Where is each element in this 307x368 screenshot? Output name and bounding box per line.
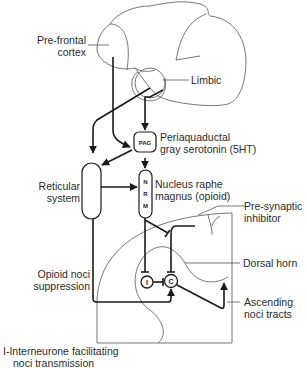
label-line: gray serotonin (5HT) <box>160 143 256 155</box>
svg-text:PAG: PAG <box>139 140 152 146</box>
label-line: Ascending <box>244 296 293 308</box>
svg-text:I: I <box>146 279 148 286</box>
label-interneurone: I-Interneurone facilitating noci transmi… <box>3 345 119 368</box>
svg-text:C: C <box>168 278 173 285</box>
label-line: Pre-synaptic <box>244 200 302 212</box>
label-line: Nucleus raphe <box>155 178 230 190</box>
label-line: Periaquaductal <box>160 131 256 143</box>
label-line: Pre-frontal <box>20 34 86 46</box>
pag-node: PAG <box>134 132 156 152</box>
nrm-node: N R M <box>139 170 152 218</box>
label-line: cortex <box>20 46 86 58</box>
label-line: Reticular <box>20 180 80 192</box>
label-line: suppression <box>10 280 90 292</box>
leader-lines <box>88 45 245 302</box>
label-presynaptic-inhibitor: Pre-synaptic inhibitor <box>244 200 302 224</box>
label-line: system <box>20 192 80 204</box>
label-pag-description: Periaquaductal gray serotonin (5HT) <box>160 131 256 155</box>
svg-text:R: R <box>143 191 148 197</box>
label-limbic: Limbic <box>191 74 221 86</box>
label-line: noci transmission <box>3 357 119 368</box>
label-opioid-noci-suppression: Opioid noci suppression <box>10 268 90 292</box>
label-text: Dorsal horn <box>243 257 297 269</box>
label-line: Opioid noci <box>10 268 90 280</box>
label-line: magnus (opioid) <box>155 190 230 202</box>
label-ascending-noci-tracts: Ascending noci tracts <box>244 296 293 320</box>
label-text: Limbic <box>191 74 221 86</box>
label-line: noci tracts <box>244 308 293 320</box>
spinal-cord-outline <box>97 213 232 343</box>
label-dorsal-horn: Dorsal horn <box>243 257 297 269</box>
brain-outline <box>97 2 246 106</box>
label-line: inhibitor <box>244 212 302 224</box>
i-node: I <box>141 276 153 288</box>
label-nrm-description: Nucleus raphe magnus (opioid) <box>155 178 230 202</box>
label-line: I-Interneurone facilitating <box>3 345 119 357</box>
label-prefrontal-cortex: Pre-frontal cortex <box>20 34 86 58</box>
c-node: C <box>165 275 178 288</box>
label-reticular-system: Reticular system <box>20 180 80 204</box>
svg-text:M: M <box>143 203 148 209</box>
svg-text:N: N <box>143 179 147 185</box>
reticular-node <box>82 163 101 219</box>
